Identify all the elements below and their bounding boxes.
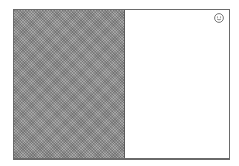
- window-frame: [13, 9, 230, 160]
- smiley-face-icon[interactable]: [214, 13, 224, 23]
- blank-panel: [125, 10, 229, 158]
- shaded-panel: [14, 10, 125, 158]
